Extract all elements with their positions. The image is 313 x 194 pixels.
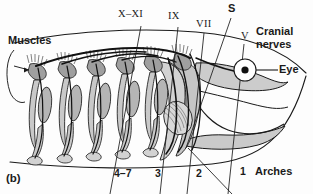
arch-muscle-head (144, 55, 162, 72)
mouth-upper-line (186, 88, 288, 108)
arch-gill-lamella (37, 86, 54, 123)
label-arch-1: 1 (240, 166, 246, 177)
label-nerve-vii: VII (196, 19, 211, 30)
branchial-arch-unit (115, 48, 141, 159)
label-nerve-s: S (228, 3, 235, 14)
label-nerve-ix: IX (168, 11, 180, 22)
branchial-arch-unit (57, 52, 83, 163)
leader-line-arch-1 (188, 148, 232, 194)
arch-muscle-head (58, 61, 76, 78)
label-nerve-v: V (241, 31, 249, 42)
label-arch-2: 2 (196, 168, 202, 179)
arch-gill-lamella (67, 84, 84, 121)
arch-gill-lamella (96, 82, 113, 119)
label-cranial-nerves-line1: Cranial (256, 26, 293, 37)
branchial-arch-unit (86, 50, 112, 161)
label-arches: Arches (255, 166, 292, 177)
label-eye: Eye (279, 64, 299, 75)
muscles-bracket-curve (7, 50, 25, 103)
muscles-pointer (7, 50, 29, 103)
arch-number-leaders (188, 148, 232, 194)
arch-muscle-head (116, 57, 134, 74)
label-cranial-nerves-line2: nerves (256, 39, 291, 50)
label-muscles: Muscles (8, 35, 51, 46)
eye-pupil (241, 66, 248, 73)
panel-label-b: (b) (6, 173, 21, 185)
branchial-arch-unit (27, 54, 53, 165)
arch-muscle-head (87, 59, 105, 76)
label-nerve-x-xi: X–XI (118, 9, 143, 20)
figure-panel-b: Muscles X–XI IX VII S V Cranial nerves E… (0, 0, 313, 194)
label-arch-3: 3 (155, 168, 161, 179)
label-arch-4-7: 4–7 (114, 168, 132, 179)
